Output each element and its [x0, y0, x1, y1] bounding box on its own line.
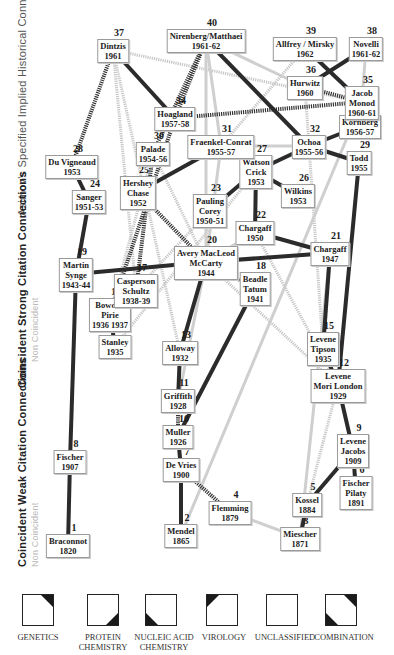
node-label: Kossel [295, 495, 319, 505]
node-9: LeveneJacobs1909 [337, 434, 369, 468]
legend-label-unclassified: UNCLASSIFIED [255, 632, 315, 642]
node-number: 27 [257, 144, 267, 154]
axis-label-strong-noncoincident: Non Coincident [30, 298, 40, 362]
node-11: Griffith1928 [161, 389, 195, 413]
node-32: Ochoa1955-56 [292, 135, 326, 159]
node-label: Levene [314, 371, 363, 381]
node-number: 21 [331, 231, 341, 241]
node-label: 1820 [49, 546, 87, 556]
node-label: Jacob [348, 88, 376, 98]
node-number: 26 [299, 173, 309, 183]
node-label: Martin [62, 260, 90, 270]
node-label: Hurwitz [290, 78, 320, 88]
node-label: Chase [123, 188, 153, 198]
node-label: 1941 [243, 294, 268, 304]
node-38: Novelli1961-62 [349, 37, 383, 61]
node-label: 1879 [212, 513, 249, 523]
node-14: Stanley1935 [99, 335, 132, 359]
node-28: Du Vigneaud1953 [45, 155, 98, 179]
legend-swatch-nucleic [145, 594, 177, 626]
node-label: 1929 [314, 391, 363, 401]
node-label: 1938-39 [117, 296, 155, 306]
node-number: 30 [154, 131, 164, 141]
node-label: Fraenkel-Conrat [190, 137, 251, 147]
node-37: Dintzis1961 [97, 39, 129, 63]
legend-swatch-genetics [22, 594, 54, 626]
node-number: 32 [310, 124, 320, 134]
node-label: 1955-56 [295, 147, 323, 157]
node-10: Muller1926 [162, 425, 193, 449]
node-label: Monod [348, 98, 376, 108]
node-number: 4 [234, 490, 239, 500]
node-label: Griffith [164, 391, 192, 401]
node-label: Todd [350, 153, 369, 163]
node-2: Mendel1865 [164, 524, 197, 548]
node-15: LeveneTipson1935 [307, 332, 339, 366]
node-label: 1884 [295, 505, 319, 515]
node-label: 1900 [166, 470, 197, 480]
node-number: 40 [207, 18, 217, 28]
node-17: CaspersonSchultz1938-39 [114, 274, 158, 308]
node-label: 1935 [102, 347, 129, 357]
node-label: Chargaff [313, 244, 346, 254]
node-6: FischerPilaty1891 [340, 476, 373, 510]
node-label: Tatum [243, 284, 268, 294]
node-29: Todd1955 [347, 151, 372, 175]
legend-label-line: NUCLEIC ACID [134, 632, 193, 642]
node-22: Chargaff1950 [235, 221, 274, 245]
axis-label-weak-noncoincident: Non Coincident [30, 503, 40, 567]
node-label: 1943-44 [62, 280, 90, 290]
legend-swatch-unclassified [266, 594, 298, 626]
node-label: 1960-61 [348, 108, 376, 118]
node-21: Chargaff1947 [310, 242, 349, 266]
node-label: 1936 1937 [92, 320, 128, 330]
node-number: 37 [114, 28, 124, 38]
node-label: Avery MacLeod [177, 248, 235, 258]
legend-label-combination: COMBINATION [314, 632, 374, 642]
node-label: 1955-57 [190, 147, 251, 157]
node-36: Hurwitz1960 [287, 76, 323, 100]
node-label: Ochoa [295, 137, 323, 147]
node-label: Dintzis [100, 41, 126, 51]
node-number: 39 [306, 26, 316, 36]
node-label: Hoagland [157, 109, 192, 119]
node-label: Jacobs [340, 446, 366, 456]
legend-swatch-combination [325, 594, 357, 626]
node-number: 28 [73, 144, 83, 154]
legend-label-virology: VIROLOGY [202, 632, 246, 642]
node-label: 1891 [343, 498, 370, 508]
node-label: 1907 [57, 462, 84, 472]
node-label: 1953 [48, 167, 95, 177]
node-label: Braconnot [49, 536, 87, 546]
node-number: 13 [181, 330, 191, 340]
legend-swatch-virology [206, 594, 238, 626]
node-label: Mori London [314, 381, 363, 391]
node-number: 8 [74, 439, 79, 449]
node-4: Flemming1879 [209, 501, 252, 525]
node-label: 1952 [123, 198, 153, 208]
node-number: 19 [77, 247, 87, 257]
node-number: 5 [311, 482, 316, 492]
node-number: 3 [304, 516, 309, 526]
node-label: 1947 [313, 254, 346, 264]
node-7: De Vries1900 [163, 458, 200, 482]
node-label: 1935 [310, 354, 336, 364]
legend: GENETICSPROTEINCHEMISTRYNUCLEIC ACIDCHEM… [0, 580, 394, 655]
node-label: Pauling [196, 196, 224, 206]
edge-12-29 [338, 162, 359, 385]
node-label: Allfrey / Mirsky [276, 39, 334, 49]
node-number: 17 [137, 263, 147, 273]
node-label: 1957-58 [157, 119, 192, 129]
node-25: HersheyChase1952 [120, 176, 156, 210]
node-label: Pirie [92, 310, 128, 320]
node-label: 1962 [276, 49, 334, 59]
node-40: Nirenberg/Matthaei1961-62 [167, 29, 246, 53]
node-label: 1944 [177, 268, 235, 278]
node-12: LeveneMori London1929 [311, 369, 366, 403]
node-label: Hershey [123, 178, 153, 188]
node-label: McCarty [177, 258, 235, 268]
node-label: Schultz [117, 286, 155, 296]
node-label: 1954-56 [139, 154, 167, 164]
node-30: Palade1954-56 [136, 142, 170, 166]
node-label: 1956-57 [342, 127, 378, 137]
